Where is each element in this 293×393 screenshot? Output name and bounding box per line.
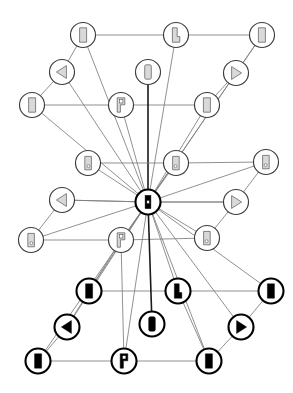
graph-edge <box>148 214 151 311</box>
graph-edge <box>46 337 59 352</box>
flag-shape-icon <box>205 354 212 368</box>
graph-edge <box>75 200 136 201</box>
tag-dot-icon-part <box>87 165 90 168</box>
graph-node[interactable] <box>164 23 189 48</box>
rounded-bar-icon-part <box>149 317 156 331</box>
flag-p-icon-part <box>119 100 123 103</box>
flag-shape-icon <box>258 28 265 42</box>
flag-p-icon-part <box>119 235 123 238</box>
graph-edge <box>40 81 53 96</box>
graph-node[interactable] <box>77 279 102 304</box>
rounded-bar-icon <box>149 317 156 331</box>
graph-edge <box>159 209 197 232</box>
graph-node[interactable] <box>50 188 75 213</box>
graph-edge <box>39 210 55 230</box>
graph-node[interactable] <box>20 93 45 118</box>
flag-shape-icon <box>203 98 210 112</box>
flag-shape-icon-part <box>203 98 210 112</box>
graph-edge <box>68 46 77 61</box>
graph-node[interactable] <box>136 60 161 85</box>
tag-dot-icon <box>28 233 35 246</box>
graph-edge <box>189 162 254 163</box>
graph-edge <box>183 302 204 349</box>
flag-shape-icon-part <box>267 284 274 298</box>
flag-p-icon-part <box>122 356 126 359</box>
flag-shape-icon <box>80 28 87 42</box>
graph-node[interactable] <box>195 226 220 251</box>
flag-shape-icon <box>29 98 36 112</box>
hub-bar-icon <box>145 195 151 208</box>
flag-shape-icon-part <box>80 28 87 42</box>
graph-node[interactable] <box>109 93 134 118</box>
graph-edge <box>155 212 233 317</box>
hub-bar-icon-part <box>147 200 150 203</box>
flag-shape-icon-part <box>29 98 36 112</box>
tag-dot-icon <box>85 156 92 169</box>
graph-node[interactable] <box>254 150 279 175</box>
graph-node[interactable] <box>224 190 249 215</box>
graph-edge <box>152 214 174 279</box>
graph-edge <box>121 253 123 349</box>
graph-node[interactable] <box>109 228 134 253</box>
graph-edge <box>98 170 137 195</box>
flag-shape-icon <box>86 284 93 298</box>
graph-node[interactable] <box>164 151 189 176</box>
tag-dot-icon-part <box>30 242 33 245</box>
tag-dot-icon <box>263 155 270 168</box>
tag-dot-icon <box>204 231 211 244</box>
graph-edge <box>249 301 263 318</box>
flag-shape-icon-part <box>258 28 265 42</box>
tag-dot-icon <box>173 156 180 169</box>
graph-svg <box>0 0 293 393</box>
graph-node[interactable] <box>50 60 75 85</box>
graph-edge <box>218 336 233 352</box>
graph-canvas <box>0 0 293 393</box>
graph-node[interactable] <box>71 23 96 48</box>
rounded-bar-icon-part <box>145 65 152 79</box>
graph-node[interactable] <box>250 23 275 48</box>
graph-node[interactable] <box>224 61 249 86</box>
node-layer <box>19 23 284 374</box>
graph-node[interactable] <box>76 151 101 176</box>
graph-node[interactable] <box>195 93 220 118</box>
flag-shape-icon-part <box>205 354 212 368</box>
graph-node[interactable] <box>26 349 51 374</box>
graph-node[interactable] <box>19 228 44 253</box>
graph-edge <box>244 172 259 192</box>
graph-node[interactable] <box>112 349 137 374</box>
graph-node-hub[interactable] <box>136 190 161 215</box>
graph-node[interactable] <box>55 315 80 340</box>
graph-node[interactable] <box>259 279 284 304</box>
flag-shape-icon <box>267 284 274 298</box>
flag-shape-icon <box>35 354 42 368</box>
tag-dot-icon-part <box>264 164 267 167</box>
rounded-bar-icon <box>145 65 152 79</box>
graph-node[interactable] <box>140 312 165 337</box>
graph-edge <box>124 117 144 190</box>
graph-edge <box>215 212 228 229</box>
graph-node[interactable] <box>166 279 191 304</box>
graph-node[interactable] <box>229 315 254 340</box>
flag-shape-icon-part <box>35 354 42 368</box>
tag-dot-icon-part <box>205 240 208 243</box>
tag-dot-icon-part <box>174 165 177 168</box>
graph-node[interactable] <box>197 349 222 374</box>
graph-edge <box>155 173 168 192</box>
flag-shape-icon-part <box>86 284 93 298</box>
